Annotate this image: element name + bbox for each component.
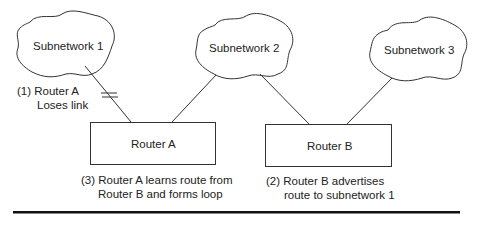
link-subnet1-routerA bbox=[85, 66, 131, 122]
step2-annotation: (2) Router B advertises route to subnetw… bbox=[266, 174, 395, 202]
router-b-label: Router B bbox=[307, 139, 352, 153]
link-subnet3-routerB bbox=[347, 78, 392, 124]
step3-line1: (3) Router A learns route from bbox=[81, 173, 232, 187]
step2-line2: route to subnetwork 1 bbox=[266, 188, 395, 202]
step1-line2: Loses link bbox=[17, 98, 88, 112]
link-subnet2-routerB bbox=[260, 74, 309, 124]
step1-annotation: (1) Router A Loses link bbox=[17, 84, 88, 112]
bottom-rule bbox=[13, 211, 460, 214]
router-a-label: Router A bbox=[131, 137, 176, 151]
step1-line1: (1) Router A bbox=[17, 84, 88, 98]
subnetwork-1-label: Subnetwork 1 bbox=[33, 39, 103, 53]
subnetwork-2-label: Subnetwork 2 bbox=[209, 41, 279, 55]
subnetwork-3-label: Subnetwork 3 bbox=[384, 43, 454, 57]
step3-annotation: (3) Router A learns route from Router B … bbox=[81, 173, 232, 201]
link-subnet2-routerA bbox=[172, 75, 216, 122]
step2-line1: (2) Router B advertises bbox=[266, 174, 395, 188]
step3-line2: Router B and forms loop bbox=[81, 187, 232, 201]
